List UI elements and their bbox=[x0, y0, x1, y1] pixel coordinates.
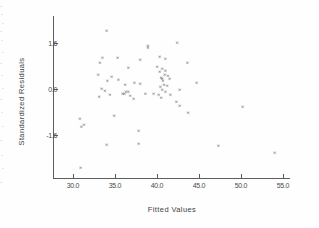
data-point-marker: × bbox=[145, 44, 150, 51]
data-point-marker: × bbox=[96, 71, 101, 78]
plot-area: 30.035.040.045.050.055.0 1.60.0-1.6 ××××… bbox=[0, 0, 319, 228]
data-point-marker: × bbox=[159, 94, 164, 101]
data-point-marker: × bbox=[79, 123, 84, 130]
data-point-marker: × bbox=[131, 95, 136, 102]
x-tick-mark bbox=[157, 174, 158, 178]
data-point-marker: × bbox=[104, 27, 109, 34]
y-axis-title: Standardized Residuals bbox=[17, 42, 26, 162]
data-point-marker: × bbox=[112, 112, 117, 119]
x-tick-mark bbox=[115, 174, 116, 178]
data-point-marker: × bbox=[175, 39, 180, 46]
data-point-marker: × bbox=[185, 59, 190, 66]
x-tick-label: 40.0 bbox=[151, 182, 163, 189]
y-tick-label: 1.6 bbox=[48, 40, 57, 47]
data-point-marker: × bbox=[177, 86, 182, 93]
data-point-marker: × bbox=[136, 127, 141, 134]
data-point-marker: × bbox=[122, 90, 127, 97]
x-tick-label: 55.0 bbox=[277, 182, 289, 189]
x-tick-mark bbox=[241, 174, 242, 178]
x-tick-label: 45.0 bbox=[193, 182, 205, 189]
y-tick-label: -1.6 bbox=[46, 132, 57, 139]
data-point-marker: × bbox=[194, 79, 199, 86]
data-point-marker: × bbox=[138, 56, 143, 63]
data-point-marker: × bbox=[163, 55, 168, 62]
x-axis-title: Fitted Values bbox=[148, 205, 196, 214]
data-point-marker: × bbox=[97, 93, 102, 100]
data-point-marker: × bbox=[240, 103, 245, 110]
data-point-marker: × bbox=[97, 59, 102, 66]
y-tick-label: 0.0 bbox=[48, 86, 57, 93]
data-point-marker: × bbox=[143, 90, 148, 97]
data-point-marker: × bbox=[186, 109, 191, 116]
data-point-marker: × bbox=[216, 142, 221, 149]
data-point-marker: × bbox=[168, 91, 173, 98]
data-point-marker: × bbox=[115, 54, 120, 61]
x-tick-label: 35.0 bbox=[109, 182, 121, 189]
data-point-marker: × bbox=[116, 76, 121, 83]
data-point-marker: × bbox=[104, 141, 109, 148]
x-tick-label: 50.0 bbox=[235, 182, 247, 189]
scatter-plot-figure: 30.035.040.045.050.055.0 1.60.0-1.6 ××××… bbox=[0, 0, 319, 228]
x-tick-mark bbox=[199, 174, 200, 178]
data-point-marker: × bbox=[138, 80, 143, 87]
data-point-marker: × bbox=[107, 91, 112, 98]
data-point-marker: × bbox=[177, 102, 182, 109]
data-point-marker: × bbox=[105, 77, 110, 84]
data-point-marker: × bbox=[157, 53, 162, 60]
data-point-marker: × bbox=[132, 79, 137, 86]
data-point-marker: × bbox=[78, 164, 83, 171]
data-point-marker: × bbox=[126, 64, 131, 71]
x-tick-mark bbox=[283, 174, 284, 178]
x-axis-line bbox=[53, 178, 290, 179]
x-tick-label: 30.0 bbox=[67, 182, 79, 189]
data-point-marker: × bbox=[136, 140, 141, 147]
x-tick-mark bbox=[73, 174, 74, 178]
data-point-marker: × bbox=[272, 149, 277, 156]
